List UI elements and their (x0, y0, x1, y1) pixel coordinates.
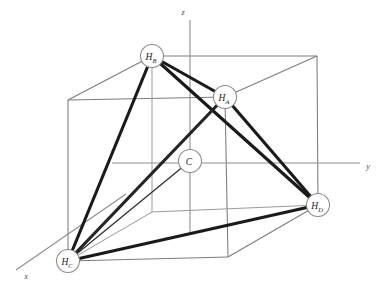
atom-C-label: C (186, 157, 193, 167)
figure-container: HB HA C HD (0, 0, 381, 288)
bond-HB-HD (152, 56, 318, 205)
bond-HC-HD (68, 205, 318, 261)
atom-HB[interactable]: HB (141, 45, 164, 68)
atom-HC[interactable]: HC (57, 250, 80, 273)
cube-edge-top-left (68, 56, 152, 100)
cube-edge-bottom-right (228, 205, 318, 257)
bond-HB-HA (152, 56, 225, 97)
cube-edge-top-right (225, 56, 317, 97)
atom-C[interactable]: C (179, 150, 202, 173)
bond-HA-HD (225, 97, 318, 205)
x-axis-label: x (23, 272, 28, 281)
molecular-diagram-svg: HB HA C HD (0, 0, 381, 288)
cube-edge-vertical-back-right (317, 56, 318, 205)
bond-HC-HA-inner (68, 97, 225, 261)
bond-HB-HC (68, 56, 152, 261)
y-axis-label: y (365, 162, 370, 171)
atom-HD[interactable]: HD (307, 194, 330, 217)
z-axis-label: z (180, 8, 185, 17)
cube-edge-bottom-front (68, 257, 228, 261)
atom-HA[interactable]: HA (214, 86, 237, 109)
